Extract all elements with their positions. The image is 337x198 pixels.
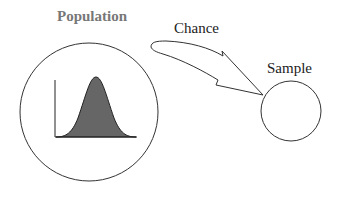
- diagram-canvas: [0, 0, 337, 198]
- population-label: Population: [57, 9, 127, 24]
- sample-circle: [261, 81, 321, 141]
- sampling-diagram: Population Chance Sample: [0, 0, 337, 198]
- chance-label: Chance: [174, 21, 219, 36]
- sample-label: Sample: [267, 61, 312, 76]
- chance-arrow-icon: [151, 41, 263, 95]
